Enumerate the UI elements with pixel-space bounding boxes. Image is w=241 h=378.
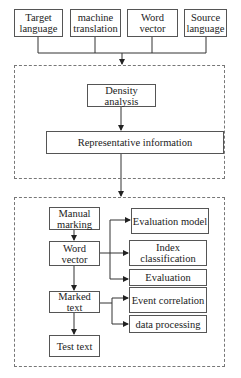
data-processing-box: data processing bbox=[129, 315, 207, 333]
manual-marking-box: Manual marking bbox=[49, 207, 100, 230]
label: Evaluation model bbox=[133, 216, 207, 227]
input-word-vector: Word vector bbox=[127, 9, 178, 37]
test-text-box: Test text bbox=[49, 335, 100, 357]
label: Evaluation bbox=[145, 272, 191, 283]
index-classification-box: Index classification bbox=[129, 240, 207, 266]
label: Source language bbox=[185, 12, 226, 34]
label: Marked text bbox=[50, 291, 99, 313]
label: Manual marking bbox=[50, 208, 99, 230]
input-machine-translation: machine translation bbox=[70, 9, 121, 37]
label: Event correlation bbox=[132, 295, 205, 306]
evaluation-box: Evaluation bbox=[129, 269, 207, 286]
label: Index classification bbox=[130, 242, 206, 264]
stage1-group bbox=[14, 65, 225, 179]
label: data processing bbox=[135, 319, 200, 330]
representative-info-box: Representative information bbox=[46, 131, 224, 154]
label: Density analysis bbox=[88, 85, 155, 107]
evaluation-model-box: Evaluation model bbox=[131, 208, 209, 234]
label: Target language bbox=[15, 12, 62, 34]
label: Test text bbox=[57, 341, 93, 352]
density-analysis-box: Density analysis bbox=[87, 84, 156, 107]
event-correlation-box: Event correlation bbox=[129, 287, 207, 313]
word-vector-box: Word vector bbox=[49, 241, 100, 266]
input-source-language: Source language bbox=[184, 9, 227, 37]
input-target-language: Target language bbox=[14, 9, 63, 37]
marked-text-box: Marked text bbox=[49, 291, 100, 313]
label: machine translation bbox=[71, 12, 120, 34]
label: Word vector bbox=[50, 243, 99, 265]
label: Representative information bbox=[78, 137, 193, 148]
label: Word vector bbox=[128, 12, 177, 34]
